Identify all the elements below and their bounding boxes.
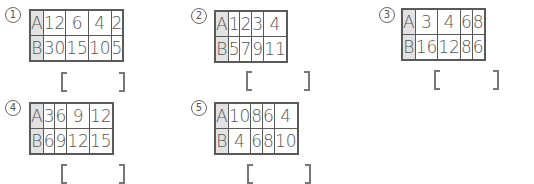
table-row-b: B 30 15 10 5	[30, 36, 123, 62]
row-header-b: B	[30, 129, 43, 155]
table-row-a: A 3 4 6 8	[402, 9, 485, 35]
cell: 4	[438, 9, 461, 35]
cell: 4	[264, 11, 287, 37]
cell: 5	[111, 36, 123, 62]
answer-bracket-left-4	[61, 164, 67, 184]
answer-bracket-left-5	[247, 164, 253, 184]
cell: 6	[43, 129, 55, 155]
cell: 4	[228, 129, 251, 155]
table-row-b: B 4 6 8 10	[215, 129, 298, 155]
problem-number-1: 1	[5, 7, 21, 23]
row-header-b: B	[30, 36, 43, 62]
cell: 16	[415, 35, 438, 61]
cell: 6	[472, 35, 484, 61]
row-header-b: B	[215, 37, 228, 63]
cell: 12	[67, 129, 90, 155]
cell: 2	[111, 10, 123, 36]
cell: 6	[251, 129, 263, 155]
row-header-a: A	[402, 9, 415, 35]
cell: 9	[252, 37, 264, 63]
problem-number-2: 2	[191, 8, 207, 24]
cell: 15	[66, 36, 89, 62]
cell: 2	[240, 11, 252, 37]
table-row-b: B 6 9 12 15	[30, 129, 113, 155]
cell: 5	[228, 37, 240, 63]
answer-bracket-right-1	[119, 72, 125, 92]
cell: 8	[460, 35, 472, 61]
table-row-a: A 12 6 4 2	[30, 10, 123, 36]
cell: 3	[252, 11, 264, 37]
problem-number-3: 3	[379, 7, 395, 23]
row-header-b: B	[215, 129, 228, 155]
table-row-a: A 10 8 6 4	[215, 103, 298, 129]
cell: 7	[240, 37, 252, 63]
problem-number-4: 4	[5, 100, 21, 116]
table-row-b: B 16 12 8 6	[402, 35, 485, 61]
row-header-a: A	[30, 103, 43, 129]
answer-bracket-right-5	[305, 164, 311, 184]
problem-number-5: 5	[191, 100, 207, 116]
answer-bracket-right-3	[493, 70, 499, 90]
cell: 15	[89, 129, 112, 155]
row-header-a: A	[215, 11, 228, 37]
cell: 1	[228, 11, 240, 37]
answer-bracket-right-4	[119, 164, 125, 184]
answer-bracket-left-3	[434, 70, 440, 90]
cell: 11	[264, 37, 287, 63]
cell: 6	[55, 103, 67, 129]
cell: 6	[263, 103, 275, 129]
cell: 6	[460, 9, 472, 35]
ab-table-4: A 3 6 9 12 B 6 9 12 15	[29, 102, 114, 155]
cell: 12	[438, 35, 461, 61]
answer-bracket-left-1	[61, 72, 67, 92]
cell: 8	[472, 9, 484, 35]
table-row-b: B 5 7 9 11	[215, 37, 287, 63]
ab-table-1: A 12 6 4 2 B 30 15 10 5	[29, 9, 124, 62]
cell: 12	[89, 103, 112, 129]
cell: 30	[43, 36, 66, 62]
cell: 3	[43, 103, 55, 129]
row-header-a: A	[30, 10, 43, 36]
cell: 8	[263, 129, 275, 155]
cell: 9	[67, 103, 90, 129]
table-row-a: A 1 2 3 4	[215, 11, 287, 37]
answer-bracket-left-2	[246, 71, 252, 91]
cell: 8	[251, 103, 263, 129]
cell: 9	[55, 129, 67, 155]
cell: 3	[415, 9, 438, 35]
cell: 10	[274, 129, 297, 155]
ab-table-3: A 3 4 6 8 B 16 12 8 6	[401, 8, 486, 61]
cell: 10	[228, 103, 251, 129]
ab-table-2: A 1 2 3 4 B 5 7 9 11	[214, 10, 288, 63]
ab-table-5: A 10 8 6 4 B 4 6 8 10	[214, 102, 299, 155]
cell: 10	[88, 36, 111, 62]
cell: 12	[43, 10, 66, 36]
cell: 4	[274, 103, 297, 129]
row-header-a: A	[215, 103, 228, 129]
table-row-a: A 3 6 9 12	[30, 103, 113, 129]
cell: 4	[88, 10, 111, 36]
cell: 6	[66, 10, 89, 36]
answer-bracket-right-2	[304, 71, 310, 91]
row-header-b: B	[402, 35, 415, 61]
